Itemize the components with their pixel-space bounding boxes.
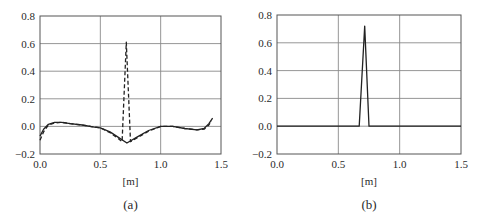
y-tick-label: 0.2 <box>21 93 35 105</box>
y-tick-label: 0.4 <box>258 65 272 77</box>
y-tick-label: 0.4 <box>21 65 35 77</box>
x-tick-labels-b: 0.00.51.01.5 <box>270 158 468 170</box>
x-tick-label: 0.0 <box>270 158 284 170</box>
x-tick-label: 1.5 <box>454 158 468 170</box>
x-tick-label: 0.0 <box>33 158 47 170</box>
chart-panel-a: 0.80.60.40.20.0−0.2 0.00.51.01.5 [m] (a) <box>15 10 228 212</box>
x-tick-label: 1.0 <box>393 158 407 170</box>
figure: 0.80.60.40.20.0−0.2 0.00.51.01.5 [m] (a)… <box>0 0 484 217</box>
y-tick-labels-b: 0.80.60.40.20.0−0.2 <box>252 9 272 160</box>
y-tick-label: 0.6 <box>21 38 35 50</box>
x-tick-labels-a: 0.00.51.01.5 <box>33 158 228 170</box>
caption-b: (b) <box>361 197 376 212</box>
series-line-solid <box>40 118 213 143</box>
x-axis-label-b: [m] <box>361 175 377 187</box>
chart-panel-b: 0.80.60.40.20.0−0.2 0.00.51.01.5 [m] (b) <box>252 9 468 212</box>
series-group-b <box>277 26 461 126</box>
y-tick-label: 0.0 <box>258 120 272 132</box>
plot-frame-b <box>277 15 461 154</box>
y-tick-label: 0.2 <box>258 92 272 104</box>
y-tick-label: −0.2 <box>252 148 272 160</box>
x-tick-label: 0.5 <box>331 158 345 170</box>
y-tick-label: −0.2 <box>15 148 35 160</box>
x-tick-label: 1.5 <box>214 158 228 170</box>
grid-b <box>277 15 461 154</box>
x-tick-label: 0.5 <box>93 158 107 170</box>
y-tick-labels-a: 0.80.60.40.20.0−0.2 <box>15 10 35 160</box>
series-group-a <box>40 42 213 143</box>
series-line-solid <box>277 26 461 126</box>
x-tick-label: 1.0 <box>154 158 168 170</box>
caption-a: (a) <box>123 197 137 212</box>
y-tick-label: 0.8 <box>258 9 272 21</box>
y-tick-label: 0.6 <box>258 37 272 49</box>
y-tick-label: 0.8 <box>21 10 35 22</box>
y-tick-label: 0.0 <box>21 120 35 132</box>
x-axis-label-a: [m] <box>123 175 139 187</box>
